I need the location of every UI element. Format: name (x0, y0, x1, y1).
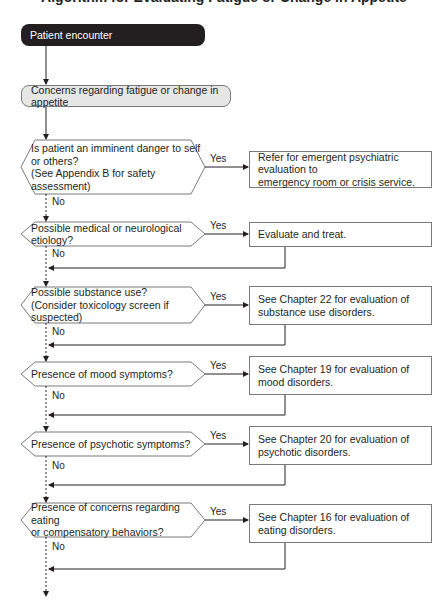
action-emergent-referral: Refer for emergent psychiatric evaluatio… (249, 151, 432, 188)
action-line: See Chapter 19 for evaluation of (258, 363, 409, 376)
decision-substance: Possible substance use? (Consider toxico… (21, 287, 205, 323)
decision-line: (See Appendix B for safety assessment) (31, 167, 205, 192)
start-label: Patient encounter (30, 29, 112, 42)
decision-eating: Presence of concerns regarding eating or… (21, 503, 205, 537)
action-line: See Chapter 16 for evaluation of (258, 511, 409, 524)
action-mood-chapter: See Chapter 19 for evaluation of mood di… (249, 356, 432, 395)
decision-line: Possible substance use? (31, 286, 205, 299)
action-psychotic-chapter: See Chapter 20 for evaluation of psychot… (249, 426, 432, 465)
action-line: Evaluate and treat. (258, 228, 346, 241)
decision-line: Presence of psychotic symptoms? (31, 438, 205, 451)
no-label: No (52, 541, 65, 552)
decision-line: Is patient an imminent danger to self (31, 142, 205, 155)
yes-label: Yes (210, 220, 226, 231)
decision-line: or compensatory behaviors? (31, 526, 205, 539)
concern-label: Concerns regarding fatigue or change in … (31, 84, 221, 109)
no-label: No (52, 390, 65, 401)
yes-label: Yes (210, 291, 226, 302)
action-line: substance use disorders. (258, 306, 375, 319)
action-line: emergency room or crisis service. (258, 176, 415, 189)
start-node: Patient encounter (21, 24, 205, 46)
no-label: No (52, 326, 65, 337)
decision-medical: Possible medical or neurological etiolog… (21, 222, 205, 246)
action-line: See Chapter 22 for evaluation of (258, 293, 409, 306)
concern-node: Concerns regarding fatigue or change in … (21, 85, 231, 107)
action-line: eating disorders. (258, 524, 336, 537)
yes-label: Yes (210, 506, 226, 517)
action-line: mood disorders. (258, 376, 333, 389)
action-evaluate-treat: Evaluate and treat. (249, 222, 432, 247)
decision-line: Possible medical or neurological etiolog… (31, 222, 205, 247)
decision-line: Presence of mood symptoms? (31, 368, 205, 381)
action-line: See Chapter 20 for evaluation of (258, 433, 409, 446)
action-eating-chapter: See Chapter 16 for evaluation of eating … (249, 504, 432, 543)
no-label: No (52, 248, 65, 259)
decision-mood: Presence of mood symptoms? (21, 362, 205, 386)
decision-line: (Consider toxicology screen if suspected… (31, 299, 205, 324)
decision-psychotic: Presence of psychotic symptoms? (21, 432, 205, 456)
yes-label: Yes (210, 430, 226, 441)
action-line: psychotic disorders. (258, 446, 351, 459)
decision-line: Presence of concerns regarding eating (31, 501, 205, 526)
action-substance-chapter: See Chapter 22 for evaluation of substan… (249, 286, 432, 325)
yes-label: Yes (210, 153, 226, 164)
no-label: No (52, 196, 65, 207)
decision-safety: Is patient an imminent danger to self or… (21, 140, 205, 194)
decision-line: or others? (31, 155, 205, 168)
yes-label: Yes (210, 360, 226, 371)
action-line: Refer for emergent psychiatric evaluatio… (258, 151, 423, 176)
no-label: No (52, 460, 65, 471)
